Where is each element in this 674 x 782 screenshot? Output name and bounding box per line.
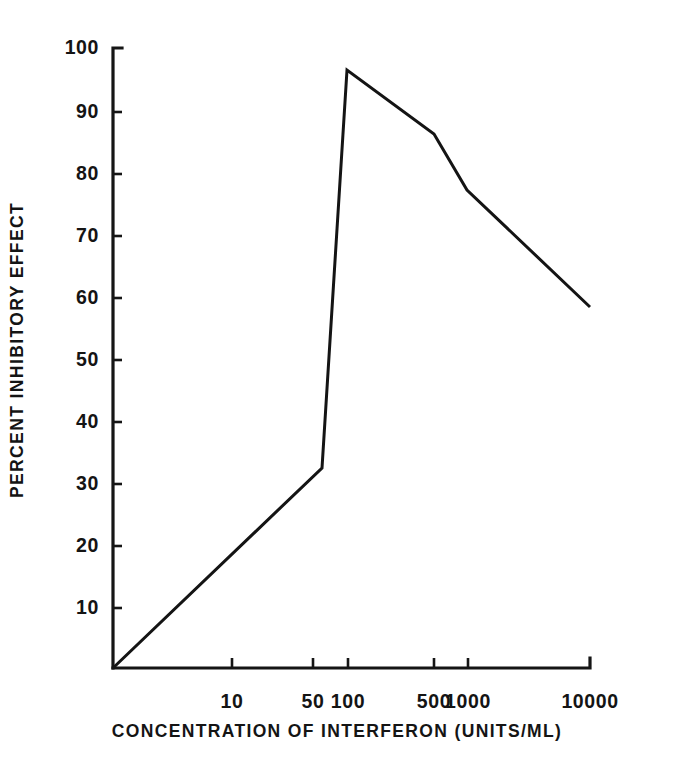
y-tick-label-90: 90 — [0, 102, 99, 122]
x-axis-title: CONCENTRATION OF INTERFERON (UNITS/ML) — [0, 723, 674, 741]
y-axis-title: PERCENT INHIBITORY EFFECT — [9, 202, 27, 498]
x-tick-label-50: 50 — [302, 692, 325, 712]
x-tick-label-1000: 1000 — [445, 692, 491, 712]
data-series-group — [113, 70, 590, 668]
y-tick-label-100: 100 — [0, 38, 99, 58]
y-tick-label-20: 20 — [0, 536, 99, 556]
x-tick-label-10000: 10000 — [561, 692, 618, 712]
plot-canvas — [0, 0, 674, 782]
axes-group — [113, 48, 590, 668]
y-tick-label-80: 80 — [0, 164, 99, 184]
chart-figure: 102030405060708090100 105010050010001000… — [0, 0, 674, 782]
x-tick-label-10: 10 — [221, 692, 244, 712]
y-axis-line — [113, 48, 122, 668]
x-axis-line — [113, 658, 590, 668]
x-tick-label-100: 100 — [331, 692, 365, 712]
y-tick-label-10: 10 — [0, 598, 99, 618]
series-line-percent-inhibitory-effect — [113, 70, 590, 668]
